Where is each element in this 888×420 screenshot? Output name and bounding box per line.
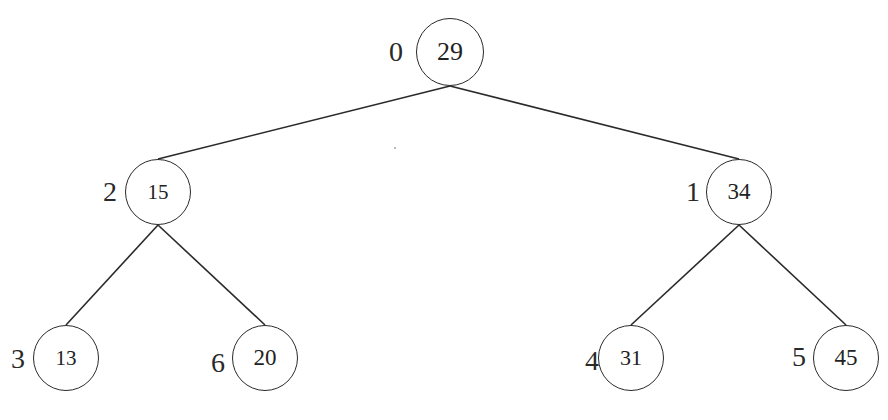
tree-diagram: 0 29 2 15 1 34 3 13 6 20 4 31 5 45 (0, 0, 888, 420)
tree-node-leaf: 31 (598, 325, 664, 391)
node-index-label: 1 (686, 178, 700, 206)
node-value: 15 (148, 180, 169, 205)
node-value: 13 (56, 346, 77, 371)
tree-node-left: 15 (125, 159, 191, 225)
tree-edge (158, 86, 450, 159)
node-index-label: 2 (103, 178, 117, 206)
tree-node-right: 34 (706, 159, 772, 225)
node-index-label: 3 (11, 345, 25, 373)
tree-edge (739, 225, 846, 325)
node-value: 20 (254, 345, 277, 371)
node-index-label: 6 (211, 349, 225, 377)
node-value: 34 (728, 179, 751, 205)
tree-edge (158, 225, 265, 325)
node-index-label: 5 (792, 343, 806, 371)
node-value: 45 (835, 345, 858, 371)
node-value: 31 (620, 345, 642, 371)
tree-edge (450, 86, 739, 159)
tree-edge (66, 225, 158, 325)
tree-edge (631, 225, 739, 325)
tree-node-leaf: 13 (33, 325, 99, 391)
tree-node-root: 29 (416, 18, 484, 86)
tree-node-leaf: 20 (232, 325, 298, 391)
node-value: 29 (437, 37, 463, 67)
stray-dot (394, 147, 396, 149)
node-index-label: 4 (585, 347, 599, 375)
tree-node-leaf: 45 (813, 325, 879, 391)
node-index-label: 0 (389, 38, 403, 66)
